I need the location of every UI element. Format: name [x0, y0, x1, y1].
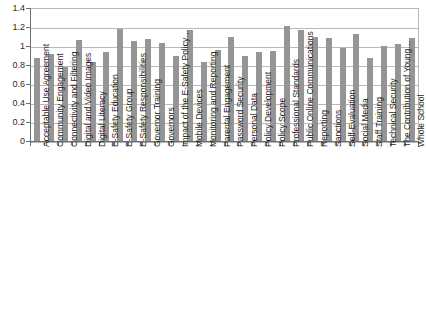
y-axis-tick-label: 0.2 — [1, 118, 25, 127]
x-axis-tick-label: Digital and Video Images — [83, 53, 92, 147]
y-axis-tick-label: 0.4 — [1, 99, 25, 108]
x-axis-labels: Acceptable Use AgreementCommunity Engage… — [30, 147, 419, 313]
x-axis-label-slot: E-Safety Responsibilities — [127, 147, 141, 313]
x-axis-label-slot: Password Security — [225, 147, 239, 313]
y-axis-tick — [26, 8, 31, 9]
x-axis-label-slot: Impact of the E-Safety Policy… — [169, 147, 183, 313]
y-axis-tick-label: 0.6 — [1, 80, 25, 89]
x-axis-tick — [30, 142, 31, 146]
x-axis-tick-label: Governor Training — [153, 79, 162, 147]
x-axis-label-slot: Policy Scope — [266, 147, 280, 313]
x-axis-tick-label: Technical Security — [389, 78, 398, 147]
x-axis-tick-label: Policy Development — [264, 72, 273, 147]
x-axis-tick-label: Staff Training — [375, 97, 384, 147]
x-axis-label-slot: Professional Standards — [280, 147, 294, 313]
x-axis-tick-label: Digital Literacy — [97, 91, 106, 147]
y-axis-tick — [26, 27, 31, 28]
x-axis-tick-label: Mobile Devices — [194, 89, 203, 147]
x-axis-tick-label: E-Safety Group — [125, 88, 134, 147]
y-axis-tick-label: 1.2 — [1, 23, 25, 32]
x-axis-tick-label: Sanctions — [333, 110, 342, 147]
x-axis-label-slot: Digital Literacy — [86, 147, 100, 313]
x-axis-label-slot: Monitoring and Reporting — [197, 147, 211, 313]
y-axis-tick — [26, 65, 31, 66]
x-axis-tick-label: Personal Data — [250, 93, 259, 147]
y-axis-labels: 1.41.210.80.60.40.20 — [0, 8, 25, 141]
x-axis-label-slot: Digital and Video Images — [72, 147, 86, 313]
x-axis-label-slot: Acceptable Use Agreement — [30, 147, 44, 313]
x-axis-label-slot: Social Media — [350, 147, 364, 313]
x-axis-tick-label: Monitoring and Reporting — [208, 52, 217, 147]
x-axis-tick-label: Connectivity and Filtering — [69, 52, 78, 147]
x-axis-tick-label: Reporting — [319, 110, 328, 147]
x-axis-tick-label: Impact of the E-Safety Policy… — [180, 29, 189, 147]
x-axis-label-slot: Reporting — [308, 147, 322, 313]
x-axis-label-slot: Public Online Communications — [294, 147, 308, 313]
x-axis-label-slot: Community Engagement — [44, 147, 58, 313]
x-axis-label-slot: Whole School — [405, 147, 419, 313]
x-axis-tick-label: Acceptable Use Agreement — [41, 44, 50, 147]
x-axis-label-slot: The Contribution of Young… — [391, 147, 405, 313]
x-axis-label-slot: Governors — [155, 147, 169, 313]
y-axis-tick — [26, 103, 31, 104]
y-axis-tick — [26, 141, 31, 142]
y-axis-tick-label: 0.8 — [1, 61, 25, 70]
x-axis-tick-label: Password Security — [236, 77, 245, 147]
y-axis-tick — [26, 122, 31, 123]
x-axis-tick-label: Governors — [166, 107, 175, 147]
x-axis-tick-label: The Contribution of Young… — [403, 40, 412, 147]
x-axis-label-slot: E-Safety Group — [113, 147, 127, 313]
y-axis-tick — [26, 46, 31, 47]
x-axis-label-slot: Staff Training — [363, 147, 377, 313]
x-axis-tick-label: E-Safety Education — [111, 74, 120, 147]
x-axis-label-slot: Policy Development — [252, 147, 266, 313]
x-axis-label-slot: Governor Training — [141, 147, 155, 313]
y-axis-tick-label: 1 — [1, 42, 25, 51]
x-axis-label-slot: Technical Security — [377, 147, 391, 313]
x-axis-tick-label: Parental Engagement — [222, 65, 231, 147]
x-axis-label-slot: Sanctions — [322, 147, 336, 313]
y-axis-tick-label: 1.4 — [1, 4, 25, 13]
x-axis-label-slot: Self-Evaluation — [336, 147, 350, 313]
x-axis-label-slot: Connectivity and Filtering — [58, 147, 72, 313]
y-axis-tick — [26, 84, 31, 85]
x-axis-tick-label: Professional Standards — [292, 59, 301, 147]
x-axis-tick-label: Whole School — [417, 95, 426, 147]
x-axis-label-slot: Personal Data — [238, 147, 252, 313]
x-axis-tick-label: E-Safety Responsibilities — [139, 53, 148, 147]
x-axis-tick-label: Policy Scope — [278, 98, 287, 147]
x-axis-tick-label: Community Engagement — [55, 53, 64, 147]
x-axis-tick-label: Public Online Communications — [305, 31, 314, 147]
x-axis-tick-label: Social Media — [361, 98, 370, 147]
x-axis-tick-label: Self-Evaluation — [347, 90, 356, 147]
bar[interactable] — [34, 58, 40, 141]
y-axis-tick-label: 0 — [1, 137, 25, 146]
x-axis-label-slot: E-Safety Education — [99, 147, 113, 313]
x-axis-label-slot: Mobile Devices — [183, 147, 197, 313]
x-axis-label-slot: Parental Engagement — [211, 147, 225, 313]
